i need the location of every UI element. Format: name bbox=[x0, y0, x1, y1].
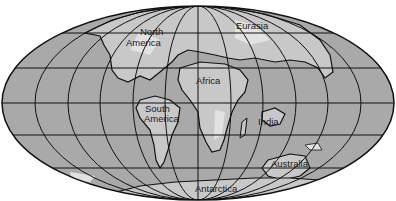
label-eurasia: Eurasia bbox=[236, 21, 268, 31]
label-australia: Australia bbox=[271, 159, 308, 169]
world-map bbox=[0, 0, 396, 201]
label-north-america: North bbox=[140, 27, 163, 37]
label-india: India bbox=[258, 117, 279, 127]
label-north-america: America bbox=[126, 38, 161, 48]
label-antarctica: Antarctica bbox=[195, 184, 237, 194]
label-africa: Africa bbox=[196, 76, 220, 86]
label-south-america: America bbox=[144, 114, 179, 124]
